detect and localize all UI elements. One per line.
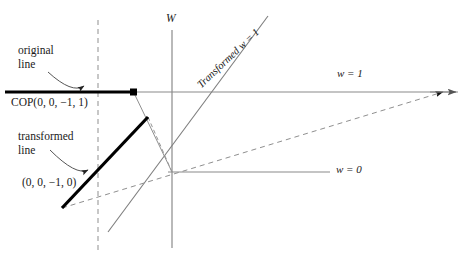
original-line-annotation: original line — [18, 44, 54, 71]
dashed-projector-ray — [62, 92, 443, 208]
original-line-annotation-row1: original — [18, 44, 54, 58]
cop-point-label: COP(0, 0, −1, 1) — [11, 96, 88, 110]
projector-segment-left — [148, 117, 172, 172]
transformed-line-annotation-row2: line — [18, 144, 74, 158]
projector-segment-right — [134, 93, 172, 172]
original-line-leader-arrow — [48, 72, 84, 88]
transformed-line-annotation: transformed line — [18, 130, 74, 157]
w-axis-label: W — [166, 12, 176, 26]
original-line-endpoint-marker — [130, 89, 137, 96]
w-equals-zero-label: w = 0 — [336, 163, 362, 176]
w-equals-one-label: w = 1 — [337, 67, 363, 80]
diagram-figure: original line transformed line COP(0, 0,… — [0, 0, 464, 268]
transformed-line-thick — [62, 117, 148, 208]
transformed-line-annotation-row1: transformed — [18, 130, 74, 144]
original-line-annotation-row2: line — [18, 58, 54, 72]
direction-point-label: (0, 0, −1, 0) — [22, 176, 76, 190]
